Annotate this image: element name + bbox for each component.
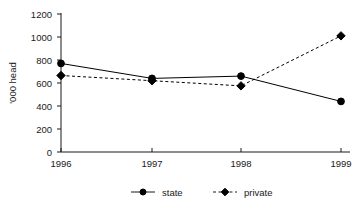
legend-label-state: state bbox=[162, 187, 183, 198]
y-tick-label-600: 600 bbox=[36, 78, 52, 89]
y-axis-title: '000 head bbox=[7, 62, 18, 103]
y-tick-label-400: 400 bbox=[36, 101, 52, 112]
data-point-circle-state-1999[interactable] bbox=[338, 98, 345, 105]
chart-background bbox=[0, 0, 361, 208]
x-tick-label-1997: 1997 bbox=[141, 158, 162, 169]
y-tick-label-0: 0 bbox=[47, 147, 52, 158]
x-tick-label-1999: 1999 bbox=[330, 158, 351, 169]
line-chart: 1200 1000 800 600 400 200 0 '000 head 19… bbox=[0, 0, 361, 208]
chart-canvas: 1200 1000 800 600 400 200 0 '000 head 19… bbox=[0, 0, 361, 208]
legend-marker-circle-icon bbox=[140, 189, 146, 195]
legend-label-private: private bbox=[244, 187, 273, 198]
y-tick-label-800: 800 bbox=[36, 55, 52, 66]
y-tick-label-1000: 1000 bbox=[31, 32, 52, 43]
y-tick-label-1200: 1200 bbox=[31, 9, 52, 20]
data-point-circle-state-1996[interactable] bbox=[58, 60, 65, 67]
y-tick-label-200: 200 bbox=[36, 124, 52, 135]
data-point-circle-state-1998[interactable] bbox=[238, 73, 245, 80]
x-tick-label-1998: 1998 bbox=[230, 158, 251, 169]
x-tick-label-1996: 1996 bbox=[50, 158, 71, 169]
